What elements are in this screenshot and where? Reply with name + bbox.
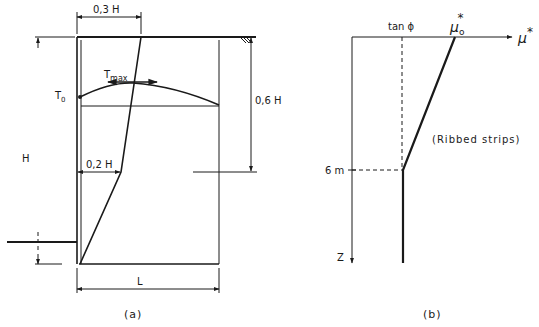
tan-phi-label: tan ϕ xyxy=(388,21,415,32)
t0-label: T0 xyxy=(54,90,66,104)
panel-a: 0,3 H 0,6 H 0,2 H H L T0 Tmax (a) xyxy=(7,4,282,321)
failure-line xyxy=(80,37,141,264)
ground-hatching xyxy=(241,38,252,43)
figure-canvas: 0,3 H 0,6 H 0,2 H H L T0 Tmax (a) xyxy=(0,0,539,327)
dim-mid-label: 0,2 H xyxy=(86,159,113,170)
caption-b: (b) xyxy=(423,308,442,321)
caption-a: (a) xyxy=(124,308,142,321)
ribbed-strips-note: (Ribbed strips) xyxy=(432,134,520,145)
x-axis-label: μ* xyxy=(517,25,533,46)
tmax-label: Tmax xyxy=(103,69,128,83)
panel-b: tan ϕ μo* μ* 6 m Z (Ribbed strips) (b) xyxy=(325,11,533,321)
dim-l-label: L xyxy=(137,276,143,287)
dim-right-label: 0,6 H xyxy=(255,95,282,106)
z-axis-label: Z xyxy=(337,252,344,263)
dim-top-label: 0,3 H xyxy=(93,4,120,15)
tension-curve xyxy=(80,83,219,105)
t0-point xyxy=(78,95,82,99)
diagram-svg: 0,3 H 0,6 H 0,2 H H L T0 Tmax (a) xyxy=(0,0,539,327)
dim-h-label: H xyxy=(22,153,30,164)
mu-star-profile xyxy=(403,37,455,263)
depth-6m-label: 6 m xyxy=(325,165,344,176)
mu0-star-label: μo* xyxy=(449,11,465,37)
